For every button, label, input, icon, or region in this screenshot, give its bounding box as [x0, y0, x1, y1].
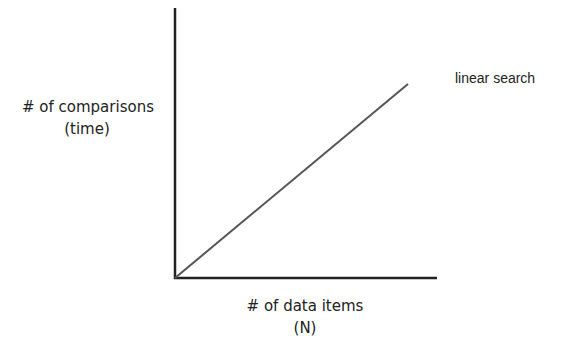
- linear-search-line: [175, 84, 408, 278]
- chart: # of comparisons (time) # of data items …: [0, 0, 563, 350]
- y-axis-label-line1: # of comparisons: [22, 96, 152, 118]
- x-axis-label-line1: # of data items: [230, 295, 380, 317]
- x-axis-label-line2: (N): [230, 317, 380, 339]
- series-label: linear search: [455, 70, 535, 86]
- y-axis-label-line2: (time): [22, 118, 152, 140]
- x-axis-label: # of data items (N): [230, 295, 380, 339]
- y-axis-label: # of comparisons (time): [22, 96, 152, 140]
